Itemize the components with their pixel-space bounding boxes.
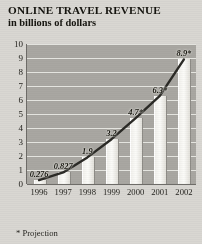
y-axis-tick-label: 5 xyxy=(19,109,24,119)
value-label-1999: 3.2 xyxy=(106,129,116,138)
page-subtitle: in billions of dollars xyxy=(8,17,202,29)
y-axis-tick-label: 1 xyxy=(19,165,24,175)
plot-area: 012345678910 0.2760.8271.93.24.7*6.3*8.9… xyxy=(26,44,196,184)
x-axis-tick-label: 1997 xyxy=(55,187,72,197)
x-axis-tick-label: 2002 xyxy=(175,187,192,197)
value-label-1998: 1.9 xyxy=(82,147,92,156)
value-label-2000: 4.7* xyxy=(128,108,143,117)
x-axis-tick-label: 1996 xyxy=(30,187,47,197)
value-label-2001: 6.3* xyxy=(152,86,167,95)
y-axis-tick-label: 10 xyxy=(14,39,23,49)
value-label-1996: 0.276 xyxy=(30,170,49,179)
y-axis-tick-label: 0 xyxy=(19,179,24,189)
footnote: * Projection xyxy=(16,228,58,238)
value-label-1997: 0.827 xyxy=(54,162,73,171)
chart-figure: 012345678910 0.2760.8271.93.24.7*6.3*8.9… xyxy=(0,40,202,215)
y-axis-tick-label: 2 xyxy=(19,151,24,161)
y-axis-tick-label: 7 xyxy=(19,81,24,91)
y-axis-tick-label: 6 xyxy=(19,95,24,105)
y-axis-tick-label: 3 xyxy=(19,137,24,147)
y-axis-tick-label: 8 xyxy=(19,67,24,77)
page-title: ONLINE TRAVEL REVENUE xyxy=(8,4,202,16)
y-axis-tick-label: 9 xyxy=(19,53,24,63)
gridline xyxy=(27,184,196,185)
x-axis-tick-label: 1999 xyxy=(103,187,120,197)
title-block: ONLINE TRAVEL REVENUE in billions of dol… xyxy=(0,0,202,29)
x-axis-tick-label: 1998 xyxy=(79,187,96,197)
trend-line xyxy=(27,44,196,184)
x-axis-tick-label: 2000 xyxy=(127,187,144,197)
y-axis-tick-label: 4 xyxy=(19,123,24,133)
value-label-2002: 8.9* xyxy=(177,49,192,58)
x-axis-tick-label: 2001 xyxy=(151,187,168,197)
